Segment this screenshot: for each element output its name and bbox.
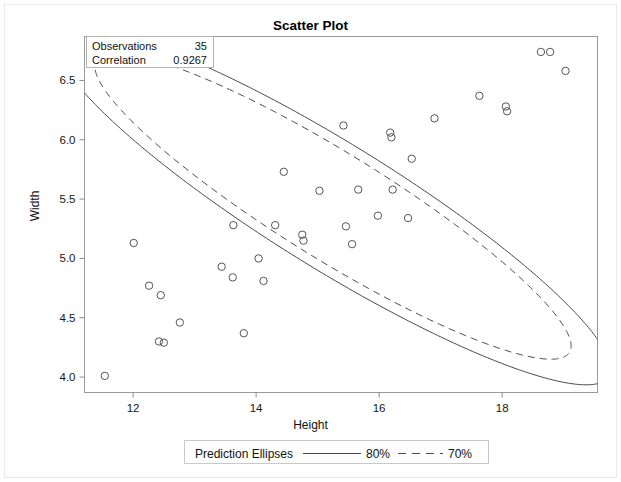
data-point	[476, 92, 483, 99]
x-tick-label: 18	[482, 402, 522, 414]
y-tick-label: 6.5	[36, 74, 76, 86]
data-point	[176, 319, 183, 326]
legend-swatch-dashed	[398, 452, 443, 455]
stats-value: 35	[195, 40, 207, 52]
scatter-plot-screenshot: Scatter Plot Observations 35 Correlation…	[0, 0, 621, 482]
y-axis-title: Width	[28, 166, 42, 246]
data-point	[387, 129, 394, 136]
data-point	[101, 372, 108, 379]
legend-title: Prediction Ellipses	[195, 447, 293, 461]
x-tick-label: 12	[113, 402, 153, 414]
prediction-ellipses	[55, 28, 610, 385]
data-point	[218, 263, 225, 270]
data-point	[145, 282, 152, 289]
data-point	[502, 103, 509, 110]
legend-label-80: 80%	[366, 447, 390, 461]
data-point	[271, 221, 278, 228]
data-point	[348, 240, 355, 247]
y-tick-label: 6.0	[36, 134, 76, 146]
data-point	[260, 277, 267, 284]
data-point	[342, 223, 349, 230]
data-point	[157, 291, 164, 298]
data-point	[316, 187, 323, 194]
y-tick-label: 4.0	[36, 371, 76, 383]
axis-tick-marks	[80, 80, 503, 397]
data-point	[374, 212, 381, 219]
prediction-ellipse-70%	[95, 53, 571, 359]
x-tick-label: 14	[236, 402, 276, 414]
x-tick-label: 16	[359, 402, 399, 414]
stats-row: Observations 35	[87, 40, 213, 55]
y-tick-label: 5.0	[36, 252, 76, 264]
legend-label-70: 70%	[448, 447, 472, 461]
y-tick-label: 4.5	[36, 312, 76, 324]
plot-canvas	[0, 0, 621, 482]
data-point	[537, 48, 544, 55]
legend: Prediction Ellipses 80% 70%	[184, 440, 489, 464]
prediction-ellipse-80%	[55, 28, 610, 385]
data-point	[503, 108, 510, 115]
data-point	[431, 115, 438, 122]
data-point	[229, 274, 236, 281]
stats-value: 0.9267	[173, 54, 207, 66]
data-point	[340, 122, 347, 129]
legend-swatch-solid	[303, 452, 361, 455]
data-point	[408, 155, 415, 162]
data-point	[388, 134, 395, 141]
data-point	[280, 168, 287, 175]
data-point	[230, 221, 237, 228]
data-point	[255, 255, 262, 262]
data-point	[546, 48, 553, 55]
data-point	[240, 329, 247, 336]
x-axis-title: Height	[0, 418, 621, 432]
stats-key: Correlation	[92, 54, 146, 66]
data-point	[160, 339, 167, 346]
stats-row: Correlation 0.9267	[87, 54, 213, 69]
data-point	[155, 338, 162, 345]
data-point	[404, 214, 411, 221]
stats-key: Observations	[92, 40, 157, 52]
data-point	[389, 186, 396, 193]
data-point	[130, 239, 137, 246]
data-point-markers	[101, 48, 569, 379]
data-point	[562, 67, 569, 74]
statistics-box: Observations 35 Correlation 0.9267	[86, 36, 214, 68]
data-point	[355, 186, 362, 193]
